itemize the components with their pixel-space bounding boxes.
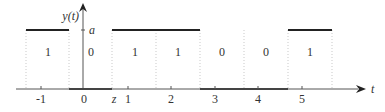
tick-label: 5 bbox=[299, 92, 305, 106]
tick-label: 0 bbox=[81, 92, 87, 106]
waveform bbox=[26, 30, 332, 89]
nrz-waveform-diagram: -1 0 1 2 3 4 5 z y(t) a t 1 0 1 1 0 0 1 bbox=[0, 0, 385, 112]
tick-label: -1 bbox=[36, 92, 46, 106]
a-level-label: a bbox=[89, 23, 95, 37]
bit-label: 1 bbox=[307, 45, 313, 59]
bit-label: 0 bbox=[219, 45, 225, 59]
tick-label: 2 bbox=[168, 92, 174, 106]
bit-label: 0 bbox=[88, 45, 94, 59]
bit-boundaries bbox=[26, 30, 332, 89]
bit-label: 1 bbox=[132, 45, 138, 59]
bit-label: 1 bbox=[175, 45, 181, 59]
tick-label: 3 bbox=[212, 92, 218, 106]
tick-label: 1 bbox=[125, 92, 131, 106]
bit-label: 0 bbox=[263, 45, 269, 59]
x-axis-label: t bbox=[371, 82, 375, 96]
y-axis-label: y(t) bbox=[61, 9, 79, 23]
tick-label: 4 bbox=[255, 92, 261, 106]
offset-label: z bbox=[111, 92, 117, 106]
bit-label: 1 bbox=[45, 45, 51, 59]
